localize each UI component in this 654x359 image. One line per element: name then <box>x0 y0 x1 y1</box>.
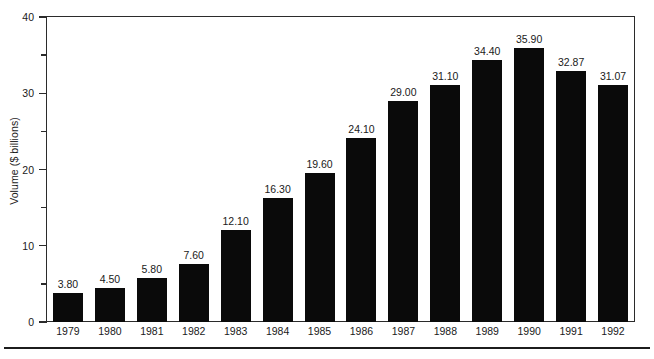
bar-value-label: 3.80 <box>58 278 78 290</box>
bar-slot: 16.30 <box>257 17 299 322</box>
bar-value-label: 31.07 <box>600 70 626 82</box>
y-axis-title-text: Volume ($ billions) <box>8 117 20 205</box>
bar <box>346 138 376 322</box>
x-tick-label: 1985 <box>308 325 331 337</box>
bottom-rule <box>4 347 650 349</box>
x-tick-label: 1992 <box>601 325 624 337</box>
bar <box>95 288 125 322</box>
x-tick-label: 1991 <box>559 325 582 337</box>
bar-slot: 5.80 <box>131 17 173 322</box>
bar <box>53 293 83 322</box>
y-axis-title: Volume ($ billions) <box>0 0 28 322</box>
bar <box>388 101 418 322</box>
bar-slot: 7.60 <box>173 17 215 322</box>
x-tick-label: 1986 <box>350 325 373 337</box>
bars-group: 3.804.505.807.6012.1016.3019.6024.1029.0… <box>47 17 634 322</box>
bar-slot: 4.50 <box>89 17 131 322</box>
y-tick-label: 30 <box>4 87 34 99</box>
bar-slot: 3.80 <box>47 17 89 322</box>
bar-slot: 34.40 <box>466 17 508 322</box>
bar <box>556 71 586 322</box>
bar <box>179 264 209 322</box>
bar <box>598 85 628 322</box>
y-tick-label: 10 <box>4 240 34 252</box>
bar-value-label: 12.10 <box>223 215 249 227</box>
bar-value-label: 32.87 <box>558 56 584 68</box>
bar-value-label: 19.60 <box>306 158 332 170</box>
y-tick-label: 0 <box>4 316 34 328</box>
x-tick-label: 1989 <box>476 325 499 337</box>
bar-slot: 29.00 <box>382 17 424 322</box>
bar-value-label: 35.90 <box>516 33 542 45</box>
bar-value-label: 34.40 <box>474 45 500 57</box>
bar <box>430 85 460 322</box>
bar-value-label: 7.60 <box>184 249 204 261</box>
bar-slot: 24.10 <box>341 17 383 322</box>
bar <box>472 60 502 322</box>
bar-slot: 31.07 <box>592 17 634 322</box>
bar <box>305 173 335 322</box>
bar-slot: 19.60 <box>299 17 341 322</box>
x-tick-label: 1983 <box>224 325 247 337</box>
bar-value-label: 31.10 <box>432 70 458 82</box>
bar-value-label: 29.00 <box>390 86 416 98</box>
bar-slot: 35.90 <box>508 17 550 322</box>
x-tick-label: 1990 <box>517 325 540 337</box>
bar <box>263 198 293 322</box>
bar-slot: 32.87 <box>550 17 592 322</box>
y-tick-label: 20 <box>4 164 34 176</box>
x-tick-label: 1979 <box>56 325 79 337</box>
bar-value-label: 24.10 <box>348 123 374 135</box>
bar <box>137 278 167 322</box>
x-tick-label: 1981 <box>140 325 163 337</box>
bar-slot: 31.10 <box>424 17 466 322</box>
y-tick-label: 40 <box>4 11 34 23</box>
bar-chart-figure: Volume ($ billions) 010203040 3.804.505.… <box>0 0 654 359</box>
x-tick-label: 1984 <box>266 325 289 337</box>
x-tick-label: 1988 <box>434 325 457 337</box>
bar-value-label: 4.50 <box>100 273 120 285</box>
x-axis-labels: 1979198019811982198319841985198619871988… <box>47 325 634 343</box>
x-tick-label: 1980 <box>98 325 121 337</box>
bar <box>514 48 544 322</box>
bar-slot: 12.10 <box>215 17 257 322</box>
bar-value-label: 16.30 <box>264 183 290 195</box>
x-tick-label: 1982 <box>182 325 205 337</box>
x-tick-label: 1987 <box>392 325 415 337</box>
bar <box>221 230 251 322</box>
bar-value-label: 5.80 <box>142 263 162 275</box>
